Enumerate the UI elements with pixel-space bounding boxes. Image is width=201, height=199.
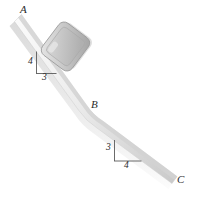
label-point-c: C (177, 174, 184, 185)
label-point-a: A (20, 4, 27, 15)
label-lower-rise: 3 (106, 143, 111, 153)
label-upper-rise: 4 (28, 57, 33, 67)
label-lower-run: 4 (124, 161, 129, 171)
label-point-b: B (91, 99, 98, 110)
inclined-plane-diagram: A B C 4 3 3 4 (0, 0, 201, 199)
label-upper-run: 3 (42, 73, 47, 83)
diagram-canvas (0, 0, 201, 199)
